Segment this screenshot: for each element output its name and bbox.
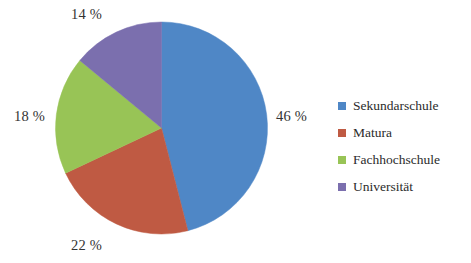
legend-swatch-icon	[338, 102, 346, 110]
legend-item-label: Matura	[353, 126, 392, 140]
legend-item-label: Fachhochschule	[353, 153, 440, 167]
chart-legend: SekundarschuleMaturaFachhochschuleUniver…	[338, 98, 440, 194]
pie-chart: 14 % 46 % 18 % 22 % SekundarschuleMatura…	[0, 0, 471, 263]
pie-plot-area	[0, 0, 330, 263]
legend-item[interactable]: Fachhochschule	[338, 152, 440, 167]
legend-item-label: Sekundarschule	[353, 99, 438, 113]
data-label-universitaet: 14 %	[71, 6, 102, 23]
data-label-sekundarschule: 46 %	[276, 108, 307, 125]
legend-swatch-icon	[338, 156, 346, 164]
pie-slice-group	[56, 22, 268, 234]
legend-item-label: Universität	[353, 180, 413, 194]
pie-svg	[0, 0, 330, 263]
legend-swatch-icon	[338, 129, 346, 137]
legend-item[interactable]: Universität	[338, 179, 440, 194]
legend-item[interactable]: Sekundarschule	[338, 98, 440, 113]
legend-swatch-icon	[338, 183, 346, 191]
data-label-fachhochschule: 18 %	[14, 108, 45, 125]
data-label-matura: 22 %	[71, 237, 102, 254]
legend-item[interactable]: Matura	[338, 125, 440, 140]
